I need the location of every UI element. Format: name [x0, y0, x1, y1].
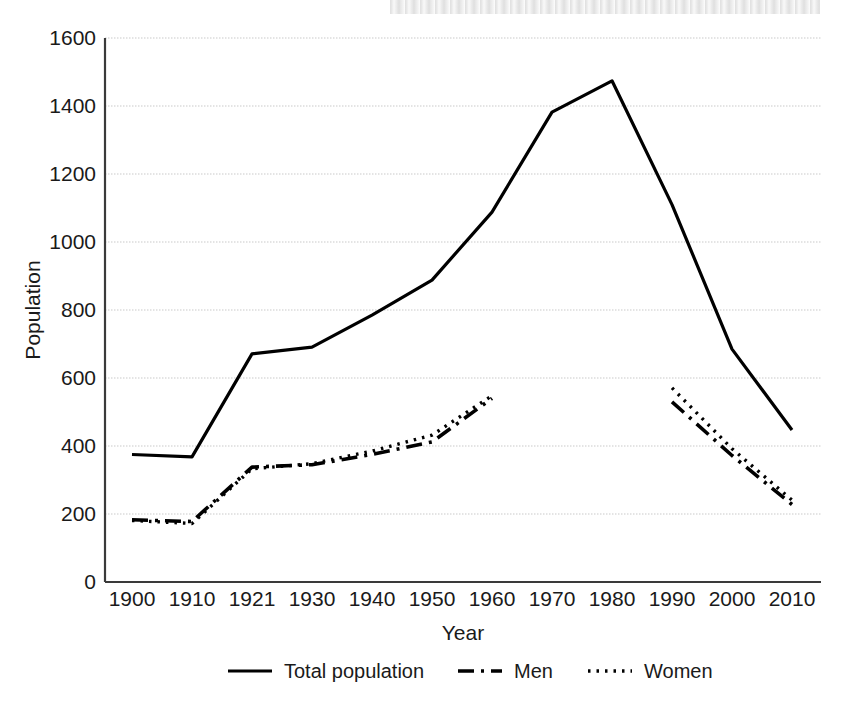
series-paths-group — [132, 81, 792, 524]
x-tick-label: 1990 — [649, 587, 696, 610]
y-tick-labels-group: 02004006008001000120014001600 — [49, 26, 96, 593]
x-tick-label: 1970 — [529, 587, 576, 610]
x-tick-label: 2000 — [709, 587, 756, 610]
x-tick-label: 1980 — [589, 587, 636, 610]
x-tick-label: 1900 — [109, 587, 156, 610]
x-tick-label: 1921 — [229, 587, 276, 610]
y-tick-label: 1400 — [49, 94, 96, 117]
y-tick-label: 0 — [84, 570, 96, 593]
y-tick-label: 200 — [61, 502, 96, 525]
y-tick-label: 1000 — [49, 230, 96, 253]
series-line-women — [132, 396, 492, 524]
series-line-men — [132, 398, 492, 521]
series-line-total-population — [132, 81, 792, 457]
x-tick-label: 2010 — [769, 587, 816, 610]
legend-label-men: Men — [514, 660, 553, 682]
x-tick-labels-group: 1900191019211930194019501960197019801990… — [109, 587, 816, 610]
y-tick-label: 1600 — [49, 26, 96, 49]
gridlines-group — [105, 38, 821, 514]
legend-label-women: Women — [644, 660, 713, 682]
y-tick-label: 600 — [61, 366, 96, 389]
scan-artifact — [390, 0, 820, 14]
legend-label-total-population: Total population — [284, 660, 424, 682]
x-tick-label: 1960 — [469, 587, 516, 610]
x-tick-label: 1950 — [409, 587, 456, 610]
y-tick-label: 800 — [61, 298, 96, 321]
x-tick-label: 1930 — [289, 587, 336, 610]
series-line-men — [672, 402, 792, 505]
x-tick-label: 1910 — [169, 587, 216, 610]
chart-canvas: 02004006008001000120014001600 1900191019… — [0, 0, 853, 704]
y-tick-label: 1200 — [49, 162, 96, 185]
population-line-chart: 02004006008001000120014001600 1900191019… — [0, 0, 853, 704]
legend: Total populationMenWomen — [228, 660, 713, 682]
y-axis-title: Population — [21, 260, 44, 359]
x-tick-label: 1940 — [349, 587, 396, 610]
y-tick-label: 400 — [61, 434, 96, 457]
x-axis-title: Year — [442, 621, 484, 644]
